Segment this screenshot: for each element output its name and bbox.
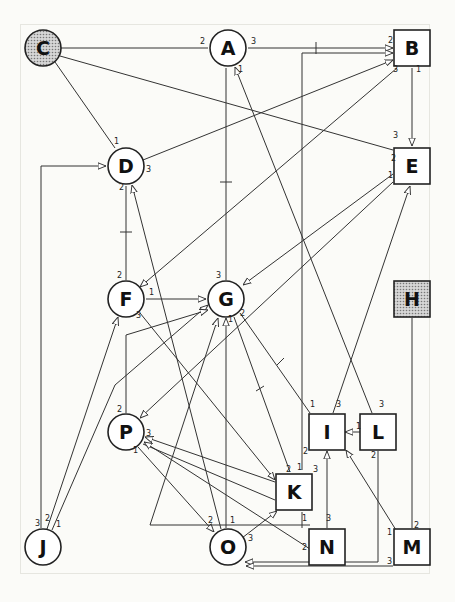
port-number: 2: [388, 36, 393, 45]
port-number: 2: [45, 514, 50, 523]
nodes-layer: ABCDEFGHILPKJONM: [25, 30, 430, 565]
node-d: D: [108, 148, 144, 184]
port-number: 1: [238, 65, 243, 74]
port-number: 1: [230, 516, 235, 525]
node-h: H: [394, 281, 430, 317]
node-label: P: [119, 421, 133, 443]
port-number: 3: [387, 557, 392, 566]
port-number: 1: [297, 463, 302, 472]
edge-p-g: [126, 310, 208, 413]
node-e: E: [394, 148, 430, 184]
port-number: 3: [251, 37, 256, 46]
node-label: B: [405, 37, 419, 59]
port-number: 1: [416, 65, 421, 74]
node-g: G: [208, 281, 244, 317]
port-number: 1: [387, 528, 392, 537]
node-j: J: [25, 529, 61, 565]
node-label: J: [37, 536, 46, 558]
port-number: 2: [391, 154, 396, 163]
edge-m-i: [346, 450, 396, 530]
port-number: 3: [393, 65, 398, 74]
node-b: B: [394, 30, 430, 66]
edge-tick: [277, 358, 284, 365]
node-label: D: [118, 155, 134, 177]
node-p: P: [108, 414, 144, 450]
edge-o-d: [132, 185, 221, 529]
edge-f-k: [140, 313, 275, 480]
node-label: I: [323, 421, 330, 443]
edge-j-f: [47, 317, 118, 529]
port-number: 2: [240, 309, 245, 318]
port-number: 1: [149, 288, 154, 297]
port-number: 1: [114, 137, 119, 146]
node-c: C: [25, 30, 61, 66]
port-number: 2: [117, 271, 122, 280]
port-number: 1: [228, 315, 233, 324]
port-number: 1: [56, 520, 61, 529]
port-number: 3: [146, 429, 151, 438]
edge-p-k: [145, 437, 275, 482]
node-label: O: [220, 536, 236, 558]
port-number: 1: [356, 422, 361, 431]
port-number: 3: [146, 165, 151, 174]
edge-g-k: [234, 317, 290, 472]
edge-e-g: [243, 174, 393, 285]
port-number: 2: [371, 451, 376, 460]
node-label: N: [319, 536, 335, 558]
edge-j-d: [41, 166, 106, 528]
node-label: C: [36, 37, 50, 59]
network-diagram: ABCDEFGHILPKJONM 21323132113221332123132…: [0, 0, 455, 602]
node-l: L: [360, 414, 396, 450]
node-label: H: [404, 288, 420, 310]
port-number: 3: [248, 534, 253, 543]
port-number: 2: [302, 543, 307, 552]
port-number: 2: [119, 183, 124, 192]
port-number: 3: [313, 465, 318, 474]
node-label: L: [372, 421, 384, 443]
port-number: 3: [379, 400, 384, 409]
node-label: F: [120, 288, 133, 310]
port-number: 2: [200, 37, 205, 46]
edge-b-f: [140, 68, 397, 287]
port-number: 2: [303, 447, 308, 456]
port-number: 2: [117, 405, 122, 414]
edge-p-k2: [143, 444, 275, 500]
port-number: 1: [302, 514, 307, 523]
node-k: K: [276, 474, 312, 510]
node-label: A: [221, 37, 236, 59]
node-label: M: [403, 536, 422, 558]
port-number: 3: [336, 400, 341, 409]
node-a: A: [210, 30, 246, 66]
node-o: O: [210, 529, 246, 565]
edge-d-b: [143, 60, 393, 160]
node-m: M: [394, 529, 430, 565]
edge-c-d: [55, 62, 115, 148]
port-number: 1: [310, 400, 315, 409]
port-number: 3: [136, 311, 141, 320]
port-number: 3: [393, 131, 398, 140]
port-number: 1: [388, 171, 393, 180]
port-number: 3: [35, 519, 40, 528]
port-number: 2: [286, 465, 291, 474]
edge-e-p: [140, 182, 393, 418]
port-number: 3: [326, 514, 331, 523]
port-number: 2: [414, 521, 419, 530]
node-label: G: [218, 288, 234, 310]
port-number: 1: [133, 446, 138, 455]
port-number: 3: [216, 271, 221, 280]
node-n: N: [309, 529, 345, 565]
node-label: E: [406, 155, 419, 177]
node-i: I: [309, 414, 345, 450]
edge-l-a: [235, 67, 372, 413]
port-number: 2: [208, 516, 213, 525]
node-label: K: [287, 481, 303, 503]
